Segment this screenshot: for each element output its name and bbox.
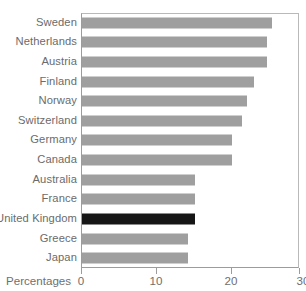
bar-chart: Sweden Netherlands Austria Finland Norwa… — [0, 0, 306, 291]
category-label: France — [42, 194, 77, 205]
bar — [82, 233, 188, 244]
bar — [82, 56, 267, 67]
x-tick-label: 20 — [225, 275, 238, 287]
category-label: Sweden — [36, 17, 77, 28]
bar — [82, 253, 188, 264]
table-row: Australia — [0, 170, 306, 190]
category-label: Netherlands — [16, 37, 77, 48]
x-tick-label: 10 — [150, 275, 163, 287]
table-row: United Kingdom — [0, 209, 306, 229]
bar — [82, 155, 232, 166]
bar — [82, 17, 272, 28]
x-tick-label: 0 — [78, 275, 84, 287]
bar — [82, 115, 242, 126]
category-label: Greece — [40, 233, 77, 244]
table-row: Germany — [0, 131, 306, 151]
category-label: Canada — [37, 154, 77, 165]
category-label: Finland — [40, 76, 77, 87]
x-axis-caption: Percentages — [6, 275, 71, 287]
table-row: France — [0, 190, 306, 210]
bar — [82, 174, 195, 185]
category-label: Austria — [41, 56, 77, 67]
table-row: Austria — [0, 52, 306, 72]
category-label: Australia — [33, 174, 77, 185]
bar — [82, 194, 195, 205]
category-label: Japan — [46, 253, 77, 264]
bar-rows: Sweden Netherlands Austria Finland Norwa… — [0, 13, 306, 268]
bar — [82, 96, 247, 107]
table-row: Netherlands — [0, 33, 306, 53]
table-row: Switzerland — [0, 111, 306, 131]
table-row: Finland — [0, 72, 306, 92]
bar — [82, 76, 254, 87]
category-label: Norway — [38, 96, 77, 107]
table-row: Canada — [0, 150, 306, 170]
table-row: Norway — [0, 92, 306, 112]
bar-highlighted — [82, 213, 195, 224]
x-tick-label: 30 — [297, 275, 306, 287]
category-label: Switzerland — [18, 115, 77, 126]
category-label: United Kingdom — [0, 213, 77, 224]
table-row: Sweden — [0, 13, 306, 33]
category-label: Germany — [30, 135, 77, 146]
table-row: Japan — [0, 248, 306, 268]
table-row: Greece — [0, 229, 306, 249]
bar — [82, 135, 232, 146]
bar — [82, 37, 267, 48]
